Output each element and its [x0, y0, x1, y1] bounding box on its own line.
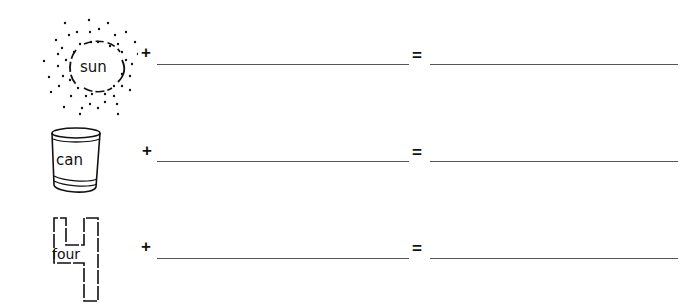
answer-blank-1b[interactable]	[430, 64, 678, 65]
answer-blank-2a[interactable]	[157, 161, 409, 162]
sun-icon: sun	[18, 8, 138, 116]
equals-sign-3: =	[412, 240, 422, 257]
can-icon: can	[48, 125, 108, 200]
four-icon: four	[50, 215, 106, 305]
can-picture: can	[48, 125, 108, 200]
can-word: can	[56, 151, 83, 169]
sun-picture: sun	[18, 8, 138, 116]
equals-sign-2: =	[412, 144, 422, 161]
plus-sign-1: +	[141, 44, 151, 61]
answer-blank-1a[interactable]	[157, 64, 409, 65]
plus-sign-3: +	[141, 238, 151, 255]
four-word: four	[52, 246, 80, 262]
answer-blank-3b[interactable]	[430, 258, 678, 259]
equals-sign-1: =	[412, 47, 422, 64]
plus-sign-2: +	[142, 142, 152, 159]
answer-blank-3a[interactable]	[157, 258, 409, 259]
answer-blank-2b[interactable]	[430, 161, 678, 162]
sun-word: sun	[80, 58, 107, 76]
four-picture: four	[50, 215, 106, 305]
